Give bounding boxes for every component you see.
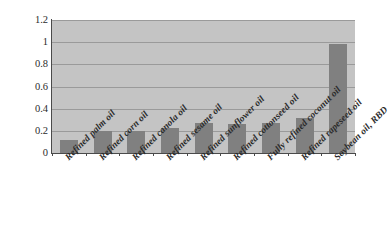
x-tick-mark: [153, 153, 154, 156]
x-axis-tick-labels: Refined palm oilRefined corn oilRefined …: [52, 155, 355, 252]
x-tick-mark: [187, 153, 188, 156]
x-tick-mark: [355, 153, 356, 156]
x-tick-mark: [86, 153, 87, 156]
bar-slot: [52, 20, 86, 153]
y-tick-label: 0.2: [2, 126, 48, 136]
y-tick-label: 0: [2, 148, 48, 158]
y-tick-label: 0.6: [2, 82, 48, 92]
x-tick-mark: [52, 153, 53, 156]
x-tick-mark: [119, 153, 120, 156]
y-tick-label: 1: [2, 37, 48, 47]
y-tick-label: 1.2: [2, 15, 48, 25]
x-tick-mark: [220, 153, 221, 156]
y-axis-tick-labels: 00.20.40.60.811.2: [0, 20, 48, 153]
y-axis-line: [51, 19, 52, 154]
x-tick-mark: [288, 153, 289, 156]
y-tick-label: 0.8: [2, 59, 48, 69]
x-tick-mark: [321, 153, 322, 156]
y-tick-label: 0.4: [2, 104, 48, 114]
x-tick-mark: [254, 153, 255, 156]
